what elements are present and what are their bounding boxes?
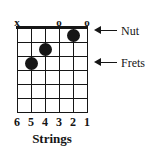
string-number-3: 3	[53, 116, 65, 128]
fretboard-grid	[17, 28, 87, 113]
string-line-6	[17, 28, 18, 113]
string-number-6: 6	[11, 116, 23, 128]
arrow-line	[100, 62, 117, 63]
nut-line	[16, 26, 88, 29]
finger-dot-string5-fret3	[25, 57, 38, 70]
string-line-4	[45, 28, 46, 113]
chord-diagram-root: x o o 6 5 4 3 2 1 Strings Nut	[0, 0, 156, 158]
string-line-5	[31, 28, 32, 113]
string-line-3	[59, 28, 60, 113]
strings-caption: Strings	[0, 132, 104, 146]
fret-line-4	[17, 84, 87, 85]
fret-line-3	[17, 70, 87, 71]
string-number-2: 2	[67, 116, 79, 128]
string-number-1: 1	[81, 116, 93, 128]
fret-line-1	[17, 42, 87, 43]
fret-line-5	[17, 98, 87, 99]
callout-frets-label: Frets	[121, 56, 145, 70]
arrow-line	[100, 30, 117, 31]
string-number-5: 5	[25, 116, 37, 128]
finger-dot-string4-fret2	[39, 43, 52, 56]
finger-dot-string2-fret1	[67, 29, 80, 42]
callout-nut-label: Nut	[121, 24, 139, 38]
string-number-4: 4	[39, 116, 51, 128]
fret-line-6	[17, 112, 87, 113]
string-line-1	[87, 28, 88, 113]
